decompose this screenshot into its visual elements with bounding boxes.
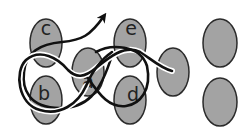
node-d: d xyxy=(114,76,146,124)
node-e: e xyxy=(114,17,146,67)
node-unlabeled-bottom-right xyxy=(203,78,237,126)
node-label-e: e xyxy=(125,17,137,39)
node-label-c: c xyxy=(41,17,51,39)
node-unlabeled-top-right xyxy=(203,19,237,67)
path-diagram: c b a e d xyxy=(0,0,249,136)
node-label-b: b xyxy=(38,82,50,104)
